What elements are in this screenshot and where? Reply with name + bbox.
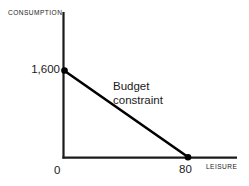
x-axis-title: LEISURE xyxy=(206,164,237,171)
data-point-marker-x-intercept xyxy=(185,154,192,161)
annotation-line-1: Budget xyxy=(113,80,163,94)
x-axis-tick-label-80: 80 xyxy=(179,164,192,176)
x-axis-tick-label-0: 0 xyxy=(54,165,60,177)
annotation-line-2: constraint xyxy=(113,94,163,108)
y-axis-title: CONSUMPTION xyxy=(8,10,62,17)
y-axis-tick-label-1600: 1,600 xyxy=(31,64,60,76)
budget-constraint-chart: CONSUMPTION LEISURE 1,600 0 80 Budget co… xyxy=(0,0,249,186)
budget-constraint-annotation: Budget constraint xyxy=(113,80,163,107)
data-point-marker-y-intercept xyxy=(61,67,68,74)
